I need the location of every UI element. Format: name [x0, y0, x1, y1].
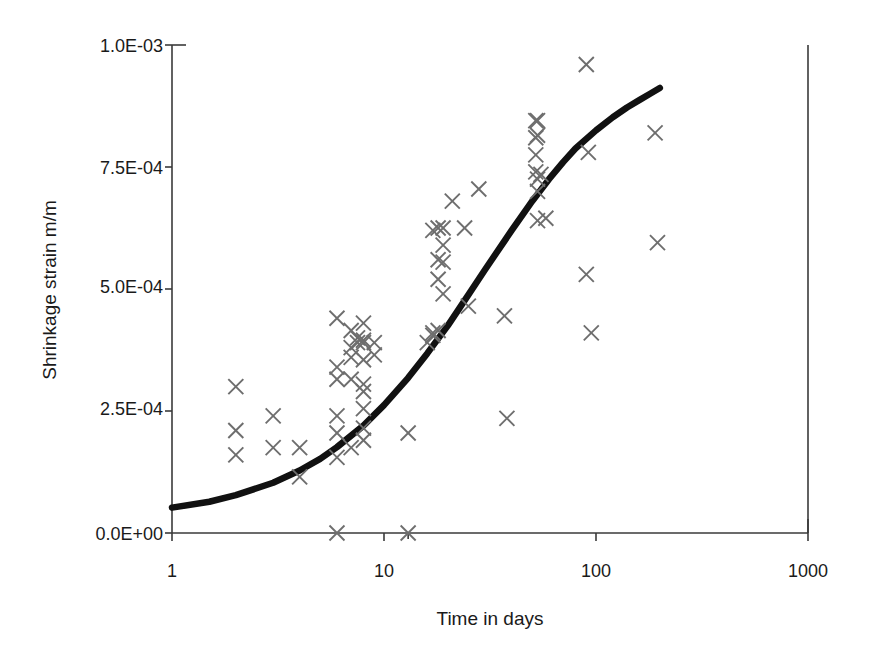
data-point-marker [528, 113, 543, 128]
data-point-marker [356, 401, 371, 416]
chart-svg: Shrinkage strain m/m 1.0E-03 7.5E-04 5.0… [0, 0, 873, 660]
data-point-marker [329, 450, 344, 465]
data-point-marker [356, 384, 371, 399]
data-point-marker [329, 311, 344, 326]
data-point-marker [431, 252, 446, 267]
data-point-marker [436, 238, 451, 253]
x-tick-label: 100 [581, 561, 611, 581]
data-point-marker [648, 125, 663, 140]
data-point-marker [431, 272, 446, 287]
data-point-marker [445, 194, 460, 209]
data-point-marker [499, 411, 514, 426]
data-point-marker [401, 425, 416, 440]
data-point-marker [581, 145, 596, 160]
x-tick-labels: 1 10 100 1000 [167, 561, 828, 581]
data-point-marker [266, 408, 281, 423]
data-point-marker [228, 423, 243, 438]
x-axis-title: Time in days [437, 608, 544, 629]
x-tick-label: 10 [374, 561, 394, 581]
data-point-marker [457, 221, 472, 236]
y-tick-label: 5.0E-04 [100, 277, 163, 297]
data-point-marker [471, 181, 486, 196]
data-point-marker [367, 335, 382, 350]
data-point-marker [530, 113, 545, 128]
data-point-marker [329, 408, 344, 423]
y-axis-title: Shrinkage strain m/m [39, 200, 60, 380]
data-point-marker [579, 267, 594, 282]
data-point-marker [436, 286, 451, 301]
data-point-marker [228, 447, 243, 462]
data-point-marker [533, 167, 548, 182]
shrinkage-strain-chart: Shrinkage strain m/m 1.0E-03 7.5E-04 5.0… [0, 0, 873, 660]
data-point-marker [436, 255, 451, 270]
data-point-marker [329, 360, 344, 375]
y-tick-labels: 1.0E-03 7.5E-04 5.0E-04 2.5E-04 0.0E+00 [95, 36, 163, 544]
y-tick-label: 0.0E+00 [95, 524, 163, 544]
y-tick-label: 2.5E-04 [100, 399, 163, 419]
axes [165, 45, 808, 541]
data-point-marker [584, 325, 599, 340]
data-point-marker [356, 377, 371, 392]
data-point-marker [292, 440, 307, 455]
y-tick-label: 7.5E-04 [100, 158, 163, 178]
data-point-marker [528, 147, 543, 162]
data-point-marker [579, 57, 594, 72]
x-tick-label: 1000 [788, 561, 828, 581]
x-tick-label: 1 [167, 561, 177, 581]
data-point-marker [228, 379, 243, 394]
data-point-marker [329, 372, 344, 387]
data-point-marker [650, 235, 665, 250]
y-tick-label: 1.0E-03 [100, 36, 163, 56]
data-point-marker [425, 223, 440, 238]
data-point-marker [266, 440, 281, 455]
data-point-marker [497, 308, 512, 323]
data-point-marker [329, 425, 344, 440]
